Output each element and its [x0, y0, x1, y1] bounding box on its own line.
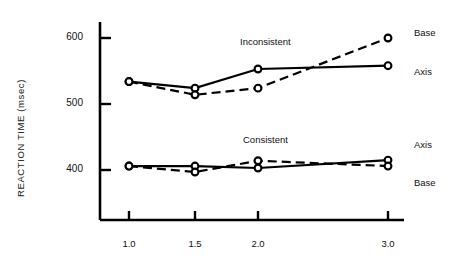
data-series-layer [126, 35, 392, 176]
data-point [126, 163, 133, 170]
chart-figure: REACTION TIME (msec) 600 500 400 1.0 1.5… [0, 0, 456, 275]
data-point [385, 62, 392, 69]
axis-lines [100, 22, 404, 220]
y-axis-ticks [100, 38, 111, 170]
data-point [385, 35, 392, 42]
data-point [255, 85, 262, 92]
data-point [385, 163, 392, 170]
data-point [255, 66, 262, 73]
data-point [255, 165, 262, 172]
plot-area [0, 0, 456, 275]
data-point [255, 157, 262, 164]
data-point [126, 78, 133, 85]
data-point [192, 169, 199, 176]
data-point [192, 91, 199, 98]
x-axis-ticks [129, 211, 388, 220]
